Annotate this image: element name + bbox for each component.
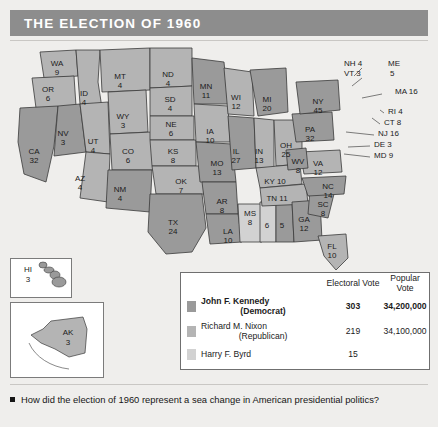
callout-de: DE 3	[374, 140, 392, 149]
legend-popular-vote: 34,100,000	[381, 326, 429, 336]
legend-candidate-name: Harry F. Byrd	[199, 349, 325, 359]
state-id	[76, 50, 102, 108]
state-votes-ne: 6	[169, 129, 174, 138]
legend-header-electoral: Electoral Vote	[325, 278, 381, 288]
state-nd	[150, 48, 192, 88]
state-label-co: CO	[122, 147, 134, 156]
figure-title: THE ELECTION OF 1960	[24, 16, 201, 31]
state-label-az: AZ	[75, 174, 85, 183]
state-votes-mi: 20	[263, 104, 272, 113]
hawaii-island	[39, 262, 47, 268]
legend-electoral-vote: 15	[325, 349, 381, 359]
state-label-va: VA	[313, 159, 324, 168]
figure-caption: How did the election of 1960 represent a…	[10, 394, 424, 407]
legend-electoral-vote: 219	[325, 326, 381, 336]
state-votes-ny: 45	[314, 106, 323, 115]
state-votes-id: 4	[82, 98, 87, 107]
state-votes-nd: 4	[166, 79, 171, 88]
state-label-sd: SD	[164, 95, 175, 104]
state-label-in: IN	[255, 147, 263, 156]
state-votes-mo: 13	[213, 168, 222, 177]
state-or	[32, 76, 76, 108]
state-votes-al: 5	[280, 221, 285, 230]
state-label-mi: MI	[263, 95, 272, 104]
hawaii-island	[52, 277, 66, 287]
callout-md: MD 9	[374, 151, 394, 160]
state-votes-in: 13	[255, 156, 264, 165]
state-votes-mt: 4	[118, 81, 123, 90]
state-votes-az: 4	[78, 183, 83, 192]
hawaii-votes: 3	[26, 275, 31, 284]
alaska-inset: AK 3	[10, 302, 104, 378]
alaska-votes: 3	[66, 338, 71, 347]
legend-candidate-name: Richard M. Nixon(Republican)	[199, 321, 325, 342]
state-label-ia: IA	[206, 127, 214, 136]
alaska-code: AK	[63, 328, 74, 337]
state-label-ne: NE	[165, 120, 176, 129]
header-divider	[10, 40, 428, 41]
legend-popular-vote: 34,200,000	[381, 301, 429, 311]
alaska-inset-map: AK 3	[11, 303, 101, 375]
legend-candidate-party: (Republican)	[201, 331, 325, 341]
hawaii-inset: HI 3	[10, 258, 72, 298]
callout-nh: NH 4	[344, 59, 363, 68]
callout-ma: MA 16	[395, 87, 418, 96]
state-label-ok: OK	[175, 177, 187, 186]
state-label-wi: WI	[231, 93, 241, 102]
state-votes-sd: 4	[168, 104, 173, 113]
state-label-ar: AR	[216, 197, 227, 206]
state-votes-al: 6	[265, 221, 270, 230]
state-votes-fl: 10	[328, 251, 337, 260]
state-label-ks: KS	[168, 147, 179, 156]
legend-swatch-nixon	[181, 326, 199, 337]
state-label-mt: MT	[114, 72, 126, 81]
legend-candidate-party: (Democrat)	[201, 306, 325, 316]
state-votes-ga: 12	[300, 224, 309, 233]
state-votes-co: 6	[126, 156, 131, 165]
caption-question: How did the election of 1960 represent a…	[21, 394, 379, 405]
legend-swatch-byrd	[181, 349, 199, 360]
state-votes-mn: 11	[202, 91, 211, 100]
callout-me: ME	[388, 59, 400, 68]
state-votes-pa: 32	[306, 134, 315, 143]
state-label-sc: SC	[317, 200, 328, 209]
state-label-mo: MO	[211, 159, 224, 168]
legend-header-popular: Popular Vote	[381, 273, 429, 293]
state-votes-ca: 32	[30, 156, 39, 165]
legend-electoral-vote: 303	[325, 301, 381, 311]
results-legend: Electoral VotePopular VoteJohn F. Kenned…	[180, 272, 430, 370]
state-ak	[31, 317, 87, 357]
state-votes-wy: 3	[121, 121, 126, 130]
state-label-wv: WV	[292, 157, 306, 166]
state-label-ms: MS	[244, 209, 256, 218]
state-label-il: IL	[233, 147, 240, 156]
state-votes-ia: 10	[206, 136, 215, 145]
state-votes-wa: 9	[55, 68, 60, 77]
callout-ri: RI 4	[388, 107, 403, 116]
state-label-wy: WY	[117, 112, 131, 121]
state-votes-la: 10	[224, 236, 233, 245]
state-mt	[100, 48, 150, 92]
state-label-nc: NC	[322, 182, 334, 191]
state-label-nv: NV	[57, 129, 69, 138]
state-label-tn: TN 11	[266, 194, 288, 203]
state-label-wa: WA	[51, 59, 64, 68]
state-votes-ut: 4	[91, 146, 96, 155]
state-votes-ks: 8	[171, 156, 176, 165]
state-votes-tx: 24	[169, 227, 178, 236]
state-label-ky: KY 10	[264, 177, 286, 186]
callout-5: 5	[390, 69, 395, 78]
footer-divider	[10, 384, 428, 385]
swatch-fill	[187, 326, 196, 337]
callout-ct: CT 8	[384, 118, 402, 127]
swatch-fill	[187, 349, 196, 360]
state-label-tx: TX	[168, 218, 179, 227]
state-votes-sc: 8	[321, 209, 326, 218]
state-votes-ar: 8	[220, 206, 225, 215]
legend-candidate-name: John F. Kennedy(Democrat)	[199, 296, 325, 317]
state-label-fl: FL	[327, 242, 337, 251]
state-votes-or: 6	[46, 94, 51, 103]
callout-nj: NJ 16	[378, 129, 399, 138]
state-votes-nm: 4	[118, 194, 123, 203]
state-label-ca: CA	[28, 147, 40, 156]
